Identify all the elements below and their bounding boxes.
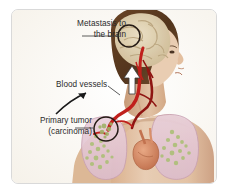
label-metastasis-line2: the brain (58, 30, 126, 41)
label-metastasis-to-the-brain: Metastasis to the brain (58, 19, 126, 40)
label-blood-vessels: Blood vessels (56, 80, 118, 91)
label-primary-tumor-line2: (carcinoma) (20, 127, 92, 138)
label-metastasis-line1: Metastasis to (58, 19, 126, 30)
label-blood-vessels-line1: Blood vessels (56, 80, 118, 91)
illustration-frame: Metastasis to the brain Blood vessels Pr… (11, 9, 217, 184)
screenshot-root: Metastasis to the brain Blood vessels Pr… (0, 0, 228, 194)
label-primary-tumor: Primary tumor (carcinoma) (20, 116, 92, 137)
label-primary-tumor-line1: Primary tumor (20, 116, 92, 127)
metastasis-illustration: Metastasis to the brain Blood vessels Pr… (12, 10, 216, 183)
